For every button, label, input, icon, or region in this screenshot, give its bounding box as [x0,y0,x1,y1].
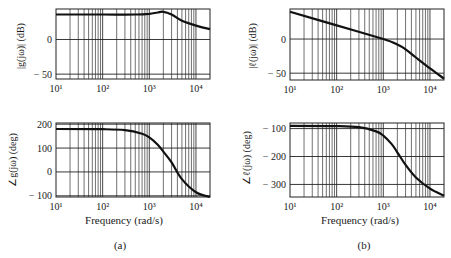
y-tick-label: − 50 [34,69,52,80]
x-tick-label: 10¹ [284,84,297,95]
y-tick-label: − 200 [263,151,286,162]
y-tick-label: 100 [37,143,52,154]
x-tick-label: 10¹ [50,201,63,212]
a-magnitude-plot: 0− 5010¹10²10³10⁴ [34,9,210,94]
y-tick-label: − 50 [268,68,286,79]
x-tick-label: 10³ [377,84,390,95]
x-tick-label: 10¹ [284,201,297,212]
plot-frame [290,123,444,197]
a-phase-plot: 2001000− 10010¹10²10³10⁴ [29,119,210,212]
x-tick-label: 10³ [143,201,156,212]
y-tick-label: 0 [47,34,52,45]
x-tick-label: 10¹ [50,83,63,94]
y-tick-label: − 300 [263,179,286,190]
x-tick-label: 10³ [143,83,156,94]
x-tick-label: 10³ [377,201,390,212]
y-tick-label: 200 [37,119,52,130]
x-tick-label: 10⁴ [423,84,437,95]
y-tick-label: − 100 [263,123,286,134]
y-tick-label: 0 [281,34,286,45]
a-phase-curve [56,129,210,197]
y-tick-label: − 100 [29,190,52,201]
x-tick-label: 10⁴ [423,201,437,212]
x-tick-label: 10² [330,84,343,95]
x-tick-label: 10² [96,83,109,94]
x-tick-label: 10² [96,201,109,212]
b-phase-plot: − 100− 200− 30010¹10²10³10⁴ [263,123,444,212]
x-tick-label: 10² [330,201,343,212]
x-tick-label: 10⁴ [189,201,203,212]
y-tick-label: 0 [47,166,52,177]
b-phase-curve [290,126,444,196]
b-magnitude-curve [290,12,444,79]
plot-frame [56,9,210,79]
b-magnitude-plot: 0− 5010¹10²10³10⁴ [268,9,444,95]
a-magnitude-curve [56,12,210,29]
bode-figure: 0− 5010¹10²10³10⁴2001000− 10010¹10²10³10… [0,0,451,258]
plot-frame [290,9,444,80]
x-tick-label: 10⁴ [189,83,203,94]
